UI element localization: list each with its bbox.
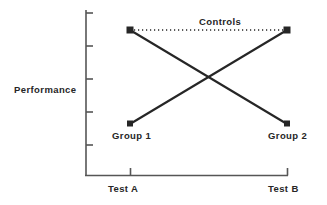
x-axis-tick-label-test-a: Test A [108,184,138,194]
x-axis [85,168,288,176]
x-axis-tick-label-test-b: Test B [268,184,299,194]
data-point-marker-top-right [284,27,291,34]
series-label-group1: Group 1 [112,131,151,141]
series-label-group2: Group 2 [268,131,307,141]
chart-figure: Performance Controls Group 1 Group 2 Tes… [0,0,327,205]
data-point-marker-bottom-left [127,121,133,127]
data-point-marker-bottom-right [284,121,290,127]
y-axis [86,10,93,176]
data-point-marker-top-left [127,27,134,34]
chart-plot-area [0,0,327,205]
series-label-controls: Controls [196,17,244,27]
y-axis-label: Performance [14,85,76,95]
